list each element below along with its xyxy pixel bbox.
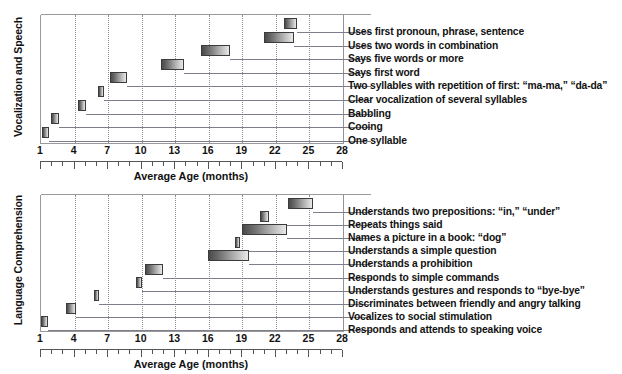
range-bar — [51, 113, 59, 124]
figure-root: { "figure": { "ghost_caption": "", "bar_… — [0, 0, 622, 374]
series-label: Responds and attends to speaking voice — [348, 324, 542, 335]
ruler-minor-tick — [297, 162, 298, 166]
x-tick-label: 13 — [168, 332, 180, 344]
series-label: Vocalizes to social stimulation — [348, 311, 492, 322]
gridline — [209, 195, 210, 331]
x-tick-label: 16 — [202, 332, 214, 344]
range-bar — [260, 211, 269, 222]
series-label: Understands a simple question — [348, 245, 496, 256]
ruler-major-tick — [40, 350, 41, 357]
x-tick-label: 22 — [269, 144, 281, 156]
ruler-major-tick — [174, 350, 175, 357]
ruler-major-tick — [275, 350, 276, 357]
gridline — [142, 195, 143, 331]
leader-line — [76, 317, 371, 318]
x-tick-label: 22 — [269, 332, 281, 344]
range-bar — [235, 237, 241, 248]
ruler-minor-tick — [219, 350, 220, 354]
ruler-major-tick — [342, 350, 343, 357]
x-tick-label: 25 — [303, 332, 315, 344]
x-axis-title-comprehension: Average Age (months) — [40, 358, 342, 370]
x-tick-label: 1 — [37, 332, 43, 344]
series-label: Understands two prepositions: “in,” “und… — [348, 206, 560, 217]
plot-top-rule — [41, 14, 371, 15]
gridline — [175, 15, 176, 143]
gridline — [343, 15, 344, 143]
gridline — [175, 195, 176, 331]
leader-line — [59, 127, 371, 128]
x-tick-label: 13 — [168, 144, 180, 156]
series-label: Discriminates between friendly and angry… — [348, 298, 581, 309]
x-tick-label: 7 — [104, 144, 110, 156]
range-bar — [208, 250, 249, 261]
x-axis-ruler — [40, 349, 342, 357]
ruler-minor-tick — [197, 350, 198, 354]
series-label: One syllable — [348, 135, 407, 146]
x-axis-title-speech: Average Age (months) — [40, 170, 342, 182]
series-label: Says five words or more — [348, 53, 464, 64]
series-label: Names a picture in a book: “dog” — [348, 232, 506, 243]
series-label: Clear vocalization of several syllables — [348, 94, 527, 105]
ruler-major-tick — [74, 350, 75, 357]
plot-area-speech — [40, 15, 344, 144]
x-tick-label: 4 — [71, 332, 77, 344]
range-bar — [66, 303, 76, 314]
ruler-minor-tick — [264, 350, 265, 354]
ruler-minor-tick — [320, 350, 321, 354]
ruler-major-tick — [241, 350, 242, 357]
series-label: Says first word — [348, 67, 420, 78]
range-bar — [284, 18, 297, 29]
leader-line — [99, 304, 371, 305]
series-label: Cooing — [348, 121, 383, 132]
leader-line — [48, 330, 371, 331]
ruler-minor-tick — [230, 162, 231, 166]
series-label: Uses first pronoun, phrase, sentence — [348, 26, 524, 37]
ruler-minor-tick — [163, 350, 164, 354]
series-label: Babbling — [348, 108, 391, 119]
gridline — [276, 195, 277, 331]
x-tick-label: 4 — [71, 144, 77, 156]
leader-line — [104, 100, 371, 101]
ruler-major-tick — [342, 162, 343, 169]
ruler-minor-tick — [96, 350, 97, 354]
series-label: Uses two words in combination — [348, 40, 498, 51]
range-bar — [145, 264, 163, 275]
leader-line — [163, 278, 371, 279]
ruler-major-tick — [275, 162, 276, 169]
ruler-major-tick — [308, 162, 309, 169]
ruler-major-tick — [107, 162, 108, 169]
y-axis-title-comprehension: Language Comprehension — [12, 185, 28, 335]
y-axis-title-speech: Vocalization and Speech — [12, 2, 28, 152]
ruler-minor-tick — [185, 162, 186, 166]
gridline — [108, 15, 109, 143]
x-tick-label: 16 — [202, 144, 214, 156]
ruler-minor-tick — [331, 350, 332, 354]
ruler-major-tick — [174, 162, 175, 169]
ruler-minor-tick — [286, 350, 287, 354]
ruler-minor-tick — [118, 162, 119, 166]
plot-top-rule — [41, 194, 371, 195]
x-tick-label: 7 — [104, 332, 110, 344]
x-axis-ruler — [40, 161, 342, 169]
range-bar — [78, 100, 86, 111]
ruler-minor-tick — [152, 162, 153, 166]
gridline — [209, 15, 210, 143]
ruler-minor-tick — [85, 350, 86, 354]
ruler-major-tick — [241, 162, 242, 169]
chart-language-comprehension: Language Comprehension Understands two p… — [0, 185, 622, 374]
ruler-minor-tick — [118, 350, 119, 354]
ruler-minor-tick — [129, 350, 130, 354]
ruler-major-tick — [208, 350, 209, 357]
range-bar — [161, 59, 184, 70]
ruler-minor-tick — [230, 350, 231, 354]
series-label: Understands gestures and responds to “by… — [348, 285, 585, 296]
leader-line — [127, 86, 371, 87]
range-bar — [94, 290, 100, 301]
gridline — [242, 15, 243, 143]
x-tick-label: 19 — [235, 332, 247, 344]
range-bar — [42, 127, 49, 138]
range-bar — [136, 277, 142, 288]
gridline — [108, 195, 109, 331]
series-label: Understands a prohibition — [348, 258, 472, 269]
ruler-minor-tick — [331, 162, 332, 166]
